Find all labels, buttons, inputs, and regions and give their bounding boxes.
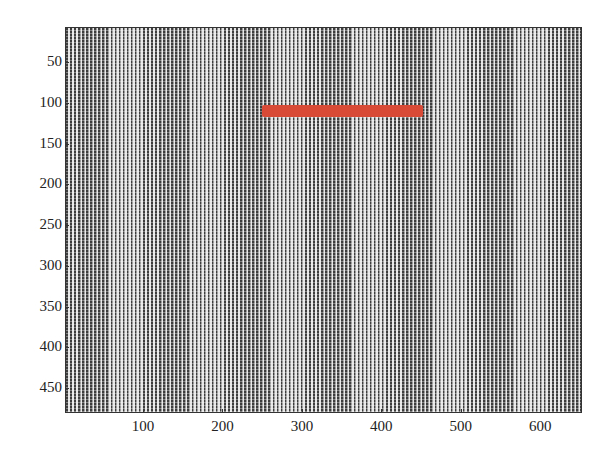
y-tick-mark (65, 307, 69, 308)
x-tick-label: 300 (282, 419, 322, 434)
y-tick-mark (65, 266, 69, 267)
x-tick-mark (461, 409, 462, 413)
image-plot-area (65, 27, 582, 413)
y-tick-mark (65, 225, 69, 226)
y-tick-mark (65, 103, 69, 104)
y-tick-label: 350 (22, 299, 62, 314)
figure: 5010015020025030035040045010020030040050… (0, 0, 612, 459)
x-tick-label: 500 (441, 419, 481, 434)
y-tick-label: 50 (22, 54, 62, 69)
y-tick-label: 400 (22, 339, 62, 354)
y-tick-mark (65, 347, 69, 348)
y-tick-mark (65, 62, 69, 63)
red-bar-annotation (262, 105, 422, 116)
x-tick-mark (143, 409, 144, 413)
x-tick-mark (540, 409, 541, 413)
y-tick-label: 200 (22, 176, 62, 191)
x-tick-mark (222, 409, 223, 413)
y-tick-label: 150 (22, 136, 62, 151)
y-tick-mark (65, 388, 69, 389)
x-tick-label: 100 (123, 419, 163, 434)
x-tick-mark (302, 409, 303, 413)
y-tick-label: 450 (22, 380, 62, 395)
x-tick-label: 200 (202, 419, 242, 434)
x-tick-label: 600 (520, 419, 560, 434)
y-tick-mark (65, 144, 69, 145)
y-tick-label: 250 (22, 217, 62, 232)
y-tick-label: 100 (22, 95, 62, 110)
y-tick-mark (65, 184, 69, 185)
x-tick-label: 400 (361, 419, 401, 434)
y-tick-label: 300 (22, 258, 62, 273)
x-tick-mark (381, 409, 382, 413)
